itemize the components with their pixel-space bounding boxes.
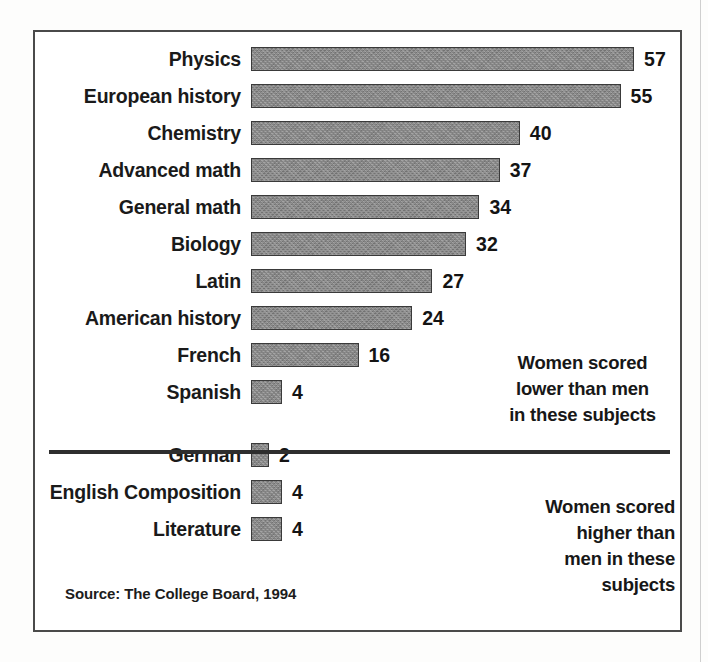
- bar-fill: [251, 195, 479, 219]
- bar: [251, 517, 282, 541]
- annotation-line: men in these: [483, 546, 675, 572]
- bar-fill: [251, 380, 282, 404]
- bar-fill: [251, 84, 621, 108]
- bar-fill: [251, 443, 269, 467]
- bar-category-label: Latin: [195, 266, 241, 296]
- group-divider: [49, 450, 670, 454]
- bar-category-label: American history: [85, 303, 241, 333]
- bar-category-label: Biology: [171, 229, 241, 259]
- bar: [251, 158, 500, 182]
- bar-category-label: General math: [119, 192, 241, 222]
- bar-value-label: 2: [279, 440, 290, 470]
- bar-category-label: Advanced math: [98, 155, 241, 185]
- bar-category-label: English Composition: [50, 477, 241, 507]
- annotation-line: subjects: [483, 572, 675, 598]
- bar-value-label: 34: [489, 192, 511, 222]
- source-note: Source: The College Board, 1994: [65, 585, 296, 602]
- bar-value-label: 32: [476, 229, 498, 259]
- bar-fill: [251, 158, 500, 182]
- bar-fill: [251, 306, 412, 330]
- annotation-line: higher than: [483, 520, 675, 546]
- bar-category-label: Chemistry: [147, 118, 241, 148]
- bar: [251, 195, 479, 219]
- bar-fill: [251, 121, 520, 145]
- bar-value-label: 4: [292, 377, 303, 407]
- bar: [251, 47, 634, 71]
- scan-edge-line: [700, 0, 701, 662]
- bar-category-label: Literature: [153, 514, 241, 544]
- bar: [251, 269, 432, 293]
- bar-category-label: German: [169, 440, 242, 470]
- bar: [251, 121, 520, 145]
- bar-row: American history24: [35, 303, 680, 333]
- annotation-line: lower than men: [490, 376, 675, 402]
- bar-row: European history55: [35, 81, 680, 111]
- bar: [251, 306, 412, 330]
- bar-row: Advanced math37: [35, 155, 680, 185]
- bar-fill: [251, 480, 282, 504]
- bar: [251, 343, 359, 367]
- annotation-line: Women scored: [490, 350, 675, 376]
- bar-value-label: 16: [369, 340, 391, 370]
- annotation-women-higher: Women scoredhigher thanmen in thesesubje…: [483, 494, 675, 598]
- bar-row: Biology32: [35, 229, 680, 259]
- bar: [251, 84, 621, 108]
- bar-category-label: French: [177, 340, 241, 370]
- bar: [251, 480, 282, 504]
- bar-fill: [251, 517, 282, 541]
- bar-fill: [251, 232, 466, 256]
- annotation-line: Women scored: [483, 494, 675, 520]
- bar-fill: [251, 269, 432, 293]
- bar-category-label: Physics: [169, 44, 241, 74]
- bar-category-label: European history: [84, 81, 241, 111]
- annotation-line: in these subjects: [490, 402, 675, 428]
- bar-row: Physics57: [35, 44, 680, 74]
- bar-fill: [251, 343, 359, 367]
- bar-value-label: 24: [422, 303, 444, 333]
- bar-fill: [251, 47, 634, 71]
- bar-row: Chemistry40: [35, 118, 680, 148]
- bar-value-label: 37: [510, 155, 532, 185]
- bar-value-label: 27: [442, 266, 464, 296]
- bar-row: Latin27: [35, 266, 680, 296]
- bar-value-label: 55: [631, 81, 653, 111]
- bar: [251, 443, 269, 467]
- bar-value-label: 4: [292, 477, 303, 507]
- bar-category-label: Spanish: [167, 377, 241, 407]
- bar-value-label: 40: [530, 118, 552, 148]
- bar-row: German2: [35, 440, 680, 470]
- bar: [251, 232, 466, 256]
- bar: [251, 380, 282, 404]
- bar-value-label: 57: [644, 44, 666, 74]
- chart-frame: Physics57European history55Chemistry40Ad…: [33, 30, 682, 632]
- bar-row: General math34: [35, 192, 680, 222]
- bar-value-label: 4: [292, 514, 303, 544]
- annotation-women-lower: Women scoredlower than menin these subje…: [490, 350, 675, 428]
